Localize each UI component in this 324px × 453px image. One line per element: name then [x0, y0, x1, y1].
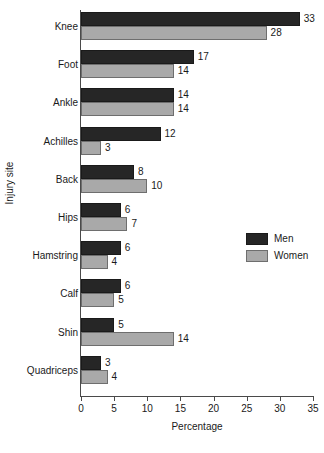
bar-row: 8 [81, 165, 313, 179]
legend-label: Men [274, 234, 293, 244]
bar-women [81, 179, 147, 193]
bar-group: 65 [81, 279, 313, 307]
bar-row: 33 [81, 12, 313, 26]
category-label-ankle: Ankle [0, 98, 78, 108]
bar-group: 123 [81, 127, 313, 155]
x-tick [280, 396, 281, 401]
bar-men [81, 165, 134, 179]
bar-value-label: 14 [178, 334, 189, 344]
bar-group: 3328 [81, 12, 313, 40]
bar-value-label: 28 [271, 28, 282, 38]
legend-swatch-women [246, 250, 268, 262]
bar-men [81, 279, 121, 293]
legend-label: Women [274, 251, 308, 261]
bar-row: 5 [81, 293, 313, 307]
bar-row: 3 [81, 141, 313, 155]
bar-value-label: 6 [125, 205, 131, 215]
bar-women [81, 64, 174, 78]
x-tick-label: 10 [142, 404, 153, 414]
bar-row: 4 [81, 370, 313, 384]
category-label-quadriceps: Quadriceps [0, 366, 78, 376]
category-label-foot: Foot [0, 60, 78, 70]
bar-row: 7 [81, 217, 313, 231]
bar-women [81, 255, 108, 269]
bar-value-label: 17 [198, 52, 209, 62]
bar-value-label: 4 [112, 372, 118, 382]
bar-value-label: 12 [165, 129, 176, 139]
bar-women [81, 370, 108, 384]
bar-row: 3 [81, 356, 313, 370]
plot-area: 33281714141412381067646551434 [81, 10, 313, 396]
x-tick-label: 15 [175, 404, 186, 414]
x-tick [214, 396, 215, 401]
bar-men [81, 12, 300, 26]
bar-value-label: 33 [304, 14, 315, 24]
bar-row: 14 [81, 64, 313, 78]
category-label-knee: Knee [0, 22, 78, 32]
x-tick [180, 396, 181, 401]
x-tick [114, 396, 115, 401]
bar-value-label: 4 [112, 257, 118, 267]
bar-value-label: 8 [138, 167, 144, 177]
bar-group: 1714 [81, 50, 313, 78]
bar-value-label: 6 [125, 243, 131, 253]
bar-row: 12 [81, 127, 313, 141]
x-tick-label: 35 [307, 404, 318, 414]
x-tick-label: 30 [274, 404, 285, 414]
bar-women [81, 102, 174, 116]
bar-row: 6 [81, 279, 313, 293]
bar-men [81, 88, 174, 102]
legend-item-women: Women [246, 249, 308, 263]
bar-men [81, 50, 194, 64]
bar-value-label: 14 [178, 66, 189, 76]
bar-row: 10 [81, 179, 313, 193]
bar-row: 28 [81, 26, 313, 40]
bar-value-label: 3 [105, 358, 111, 368]
bar-value-label: 5 [118, 295, 124, 305]
bar-value-label: 7 [131, 219, 137, 229]
bar-row: 17 [81, 50, 313, 64]
legend-swatch-men [246, 233, 268, 245]
bar-men [81, 203, 121, 217]
bar-value-label: 6 [125, 281, 131, 291]
bar-value-label: 14 [178, 104, 189, 114]
bar-row: 5 [81, 318, 313, 332]
x-tick [313, 396, 314, 401]
category-label-calf: Calf [0, 289, 78, 299]
x-axis-title: Percentage [81, 421, 313, 432]
y-axis-title: Injury site [5, 143, 15, 223]
bar-value-label: 5 [118, 320, 124, 330]
bar-men [81, 356, 101, 370]
category-label-shin: Shin [0, 328, 78, 338]
legend-item-men: Men [246, 232, 308, 246]
x-tick [247, 396, 248, 401]
bar-group: 67 [81, 203, 313, 231]
bar-men [81, 318, 114, 332]
x-tick-label: 20 [208, 404, 219, 414]
bar-women [81, 141, 101, 155]
bar-group: 810 [81, 165, 313, 193]
category-label-hamstring: Hamstring [0, 251, 78, 261]
bar-row: 6 [81, 203, 313, 217]
bar-row: 14 [81, 102, 313, 116]
chart-legend: MenWomen [246, 232, 308, 266]
x-tick [147, 396, 148, 401]
bar-men [81, 127, 161, 141]
bar-men [81, 241, 121, 255]
bar-group: 1414 [81, 88, 313, 116]
bar-value-label: 3 [105, 143, 111, 153]
bar-value-label: 14 [178, 90, 189, 100]
bar-group: 514 [81, 318, 313, 346]
bar-value-label: 10 [151, 181, 162, 191]
bar-women [81, 26, 267, 40]
injury-site-bar-chart: KneeFootAnkleAchillesBackHipsHamstringCa… [0, 0, 324, 453]
x-tick-label: 25 [241, 404, 252, 414]
x-tick [81, 396, 82, 401]
bar-row: 14 [81, 332, 313, 346]
bar-women [81, 293, 114, 307]
bar-row: 14 [81, 88, 313, 102]
bar-women [81, 332, 174, 346]
x-tick-label: 5 [111, 404, 117, 414]
x-tick-label: 0 [78, 404, 84, 414]
bar-women [81, 217, 127, 231]
